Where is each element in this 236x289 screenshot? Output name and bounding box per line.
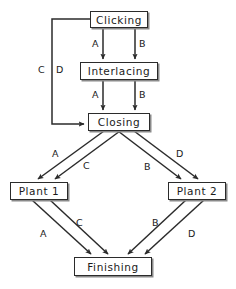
edge-label-closing-plant1-a: A bbox=[52, 148, 59, 159]
node-clicking[interactable]: Clicking bbox=[90, 11, 148, 28]
edge-label-interlacing-closing-a: A bbox=[92, 89, 99, 100]
connector-closing-plant1-a bbox=[38, 131, 104, 179]
edge-label-clicking-interlacing-b: B bbox=[139, 38, 146, 49]
edge-label-plant1-finishing-c: C bbox=[76, 217, 83, 228]
node-plant-2[interactable]: Plant 2 bbox=[168, 182, 226, 200]
node-closing-label: Closing bbox=[98, 116, 141, 128]
edge-label-closing-plant2-d: D bbox=[176, 148, 184, 159]
diagram-connectors bbox=[0, 0, 236, 289]
node-interlacing-label: Interlacing bbox=[88, 65, 151, 77]
node-closing[interactable]: Closing bbox=[88, 113, 150, 131]
edge-label-clicking-interlacing-a: A bbox=[92, 38, 99, 49]
diagram-canvas: Clicking Interlacing Closing Plant 1 Pla… bbox=[0, 0, 236, 289]
edge-label-plant2-finishing-b: B bbox=[152, 217, 159, 228]
node-plant-1-label: Plant 1 bbox=[19, 185, 60, 197]
node-finishing-label: Finishing bbox=[87, 261, 139, 273]
edge-label-closing-plant1-c: C bbox=[83, 160, 90, 171]
edge-label-closing-plant2-b: B bbox=[144, 161, 151, 172]
node-finishing[interactable]: Finishing bbox=[74, 257, 152, 276]
node-clicking-label: Clicking bbox=[96, 14, 142, 26]
edge-label-plant1-finishing-a: A bbox=[40, 228, 47, 239]
edge-label-bypass-c: C bbox=[38, 64, 45, 75]
node-plant-1[interactable]: Plant 1 bbox=[10, 182, 68, 200]
edge-label-bypass-d: D bbox=[56, 64, 64, 75]
edge-label-plant2-finishing-d: D bbox=[188, 228, 196, 239]
edge-label-interlacing-closing-b: B bbox=[139, 89, 146, 100]
node-interlacing[interactable]: Interlacing bbox=[80, 62, 158, 80]
connector-closing-plant1-c bbox=[55, 131, 120, 179]
node-plant-2-label: Plant 2 bbox=[177, 185, 218, 197]
